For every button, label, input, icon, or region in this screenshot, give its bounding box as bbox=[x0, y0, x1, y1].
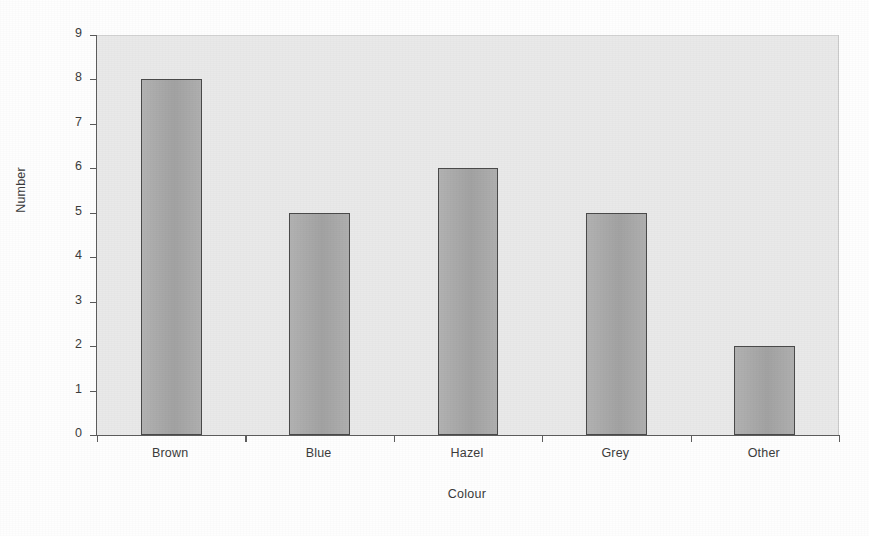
bar bbox=[734, 346, 795, 435]
x-axis-tick-mark bbox=[691, 435, 692, 442]
bar-series bbox=[97, 35, 839, 435]
bar bbox=[141, 79, 202, 435]
bar-chart-figure: Number 0123456789 BrownBlueHazelGreyOthe… bbox=[0, 0, 869, 536]
y-axis: 0123456789 bbox=[0, 35, 96, 435]
bar-shading bbox=[142, 80, 201, 434]
x-axis-tick-mark bbox=[839, 435, 840, 442]
x-axis-tick-label: Hazel bbox=[393, 446, 541, 460]
x-axis-tick-mark bbox=[245, 435, 246, 442]
x-axis-tick-label: Blue bbox=[244, 446, 392, 460]
bar-shading bbox=[290, 214, 349, 434]
bar bbox=[586, 213, 647, 435]
y-axis-tick-label: 5 bbox=[42, 204, 82, 218]
x-axis-tick-label: Grey bbox=[541, 446, 689, 460]
x-axis-title: Colour bbox=[96, 487, 838, 501]
x-axis-tick-label: Brown bbox=[96, 446, 244, 460]
bar bbox=[289, 213, 350, 435]
y-axis-tick-label: 9 bbox=[42, 26, 82, 40]
bar-shading bbox=[587, 214, 646, 434]
bar-shading bbox=[439, 169, 498, 434]
bar bbox=[438, 168, 499, 435]
y-axis-tick-label: 3 bbox=[42, 293, 82, 307]
y-axis-tick-label: 0 bbox=[42, 426, 82, 440]
y-axis-tick-label: 6 bbox=[42, 159, 82, 173]
x-axis-tick-mark bbox=[542, 435, 543, 442]
bar-shading bbox=[735, 347, 794, 434]
y-axis-tick-label: 4 bbox=[42, 248, 82, 262]
y-axis-tick-label: 1 bbox=[42, 382, 82, 396]
y-axis-tick-label: 7 bbox=[42, 115, 82, 129]
plot-area bbox=[96, 35, 839, 436]
x-axis-tick-mark bbox=[394, 435, 395, 442]
y-axis-tick-label: 2 bbox=[42, 337, 82, 351]
y-axis-tick-label: 8 bbox=[42, 70, 82, 84]
x-axis-tick-label: Other bbox=[690, 446, 838, 460]
x-axis-tick-mark bbox=[97, 435, 98, 442]
x-axis-tick-labels: BrownBlueHazelGreyOther bbox=[96, 446, 838, 466]
